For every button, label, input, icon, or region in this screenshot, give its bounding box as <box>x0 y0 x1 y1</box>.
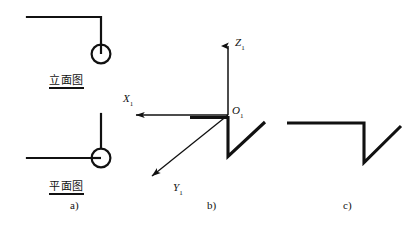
panel-c-object-zigzag <box>287 123 401 163</box>
elevation-view-label: 立面图 <box>49 74 84 89</box>
origin-subscript: 1 <box>240 112 244 120</box>
axis-label-y1: Y1 <box>173 181 183 196</box>
axis-z1-subscript: 1 <box>241 44 245 52</box>
axis-y1-subscript: 1 <box>179 189 183 197</box>
elevation-profile-line <box>27 17 101 45</box>
axis-y1-line <box>152 115 228 176</box>
axis-label-x1: X1 <box>123 92 133 107</box>
panel-a-elevation-view <box>27 17 110 63</box>
figure-canvas: 立面图 平面图 Z1 X1 Y1 O1 a) b) c) <box>0 0 411 226</box>
origin-label-o1: O1 <box>232 104 243 119</box>
panel-caption-b: b) <box>207 199 216 211</box>
panel-caption-a: a) <box>70 199 79 211</box>
panel-caption-c: c) <box>343 199 352 211</box>
axis-x1-name: X <box>123 92 130 104</box>
panel-a-plan-view <box>27 114 110 167</box>
origin-name: O <box>232 104 240 116</box>
panel-c-zigzag-polyline <box>287 123 401 163</box>
axis-label-z1: Z1 <box>235 36 245 51</box>
panel-b-axis-system <box>136 46 228 176</box>
plan-view-label: 平面图 <box>49 180 84 195</box>
axis-x1-subscript: 1 <box>130 100 134 108</box>
